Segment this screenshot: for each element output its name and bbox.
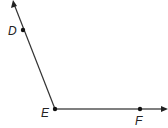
- angle-svg: D E F: [0, 0, 168, 128]
- label-e: E: [41, 106, 50, 120]
- arrowhead-icon: [11, 0, 17, 8]
- point-d: [21, 28, 25, 32]
- angle-diagram: D E F: [0, 0, 168, 128]
- label-d: D: [8, 24, 17, 38]
- ray-ed: [14, 4, 55, 109]
- label-f: F: [135, 114, 143, 128]
- point-e: [53, 107, 57, 111]
- arrowhead-icon: [161, 106, 168, 112]
- point-f: [138, 107, 142, 111]
